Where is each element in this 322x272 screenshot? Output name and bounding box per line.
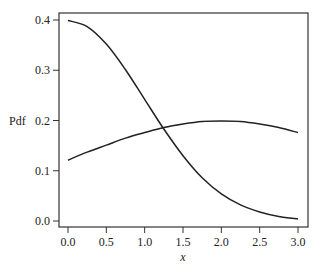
series-group [68,21,298,219]
series-line-curve-decreasing [68,21,298,219]
x-tick-label: 0.5 [99,235,114,249]
y-axis-label: Pdf [9,114,26,128]
y-axis: 0.00.10.20.30.4 [35,13,59,228]
series-line-curve-hump [68,121,298,160]
y-tick-label: 0.4 [35,13,50,27]
x-axis-label: x [179,250,186,264]
x-tick-label: 1.5 [176,235,191,249]
y-tick-label: 0.2 [35,114,50,128]
y-tick-label: 0.1 [35,164,50,178]
x-tick-label: 2.0 [214,235,229,249]
x-tick-label: 2.5 [252,235,267,249]
x-axis: 0.00.51.01.52.02.53.0 [61,227,306,249]
x-tick-label: 1.0 [137,235,152,249]
plot-frame [59,13,308,227]
y-tick-label: 0.3 [35,63,50,77]
x-tick-label: 0.0 [61,235,76,249]
y-tick-label: 0.0 [35,214,50,228]
x-tick-label: 3.0 [291,235,306,249]
pdf-chart: 0.00.10.20.30.4 0.00.51.01.52.02.53.0 Pd… [0,0,322,272]
